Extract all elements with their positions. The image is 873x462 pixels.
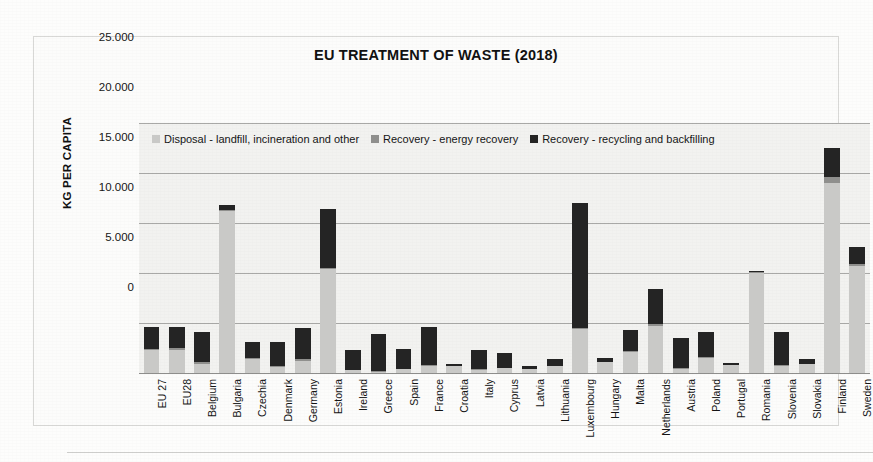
bar-segment — [371, 334, 387, 372]
stacked-bar[interactable] — [345, 350, 361, 373]
bar-segment — [396, 369, 412, 373]
stacked-bar[interactable] — [824, 148, 840, 373]
x-label-slot: Denmark — [265, 377, 290, 462]
bar-slot — [492, 123, 517, 373]
stacked-bar[interactable] — [421, 327, 437, 374]
bar-segment — [749, 273, 765, 373]
stacked-bar[interactable] — [623, 330, 639, 373]
x-label-slot: Slovakia — [794, 377, 819, 462]
stacked-bar[interactable] — [194, 332, 210, 374]
bar-segment — [446, 366, 462, 373]
stacked-bar[interactable] — [295, 328, 311, 373]
bar-segment — [623, 330, 639, 352]
bar-segment — [547, 366, 563, 373]
stacked-bar[interactable] — [396, 349, 412, 374]
bar-slot — [542, 123, 567, 373]
x-label-slot: Italy — [467, 377, 492, 462]
x-label-slot: Germany — [290, 377, 315, 462]
bar-segment — [723, 365, 739, 373]
x-label-slot: Bulgaria — [215, 377, 240, 462]
bar-segment — [295, 328, 311, 360]
x-label-slot: Luxembourg — [567, 377, 592, 462]
bar-segment — [799, 364, 815, 373]
stacked-bar[interactable] — [723, 363, 739, 373]
y-axis-tick-label: 0 — [74, 281, 134, 293]
stacked-bar[interactable] — [673, 338, 689, 373]
bar-segment — [471, 370, 487, 374]
bar-slot — [366, 123, 391, 373]
x-label-slot: France — [416, 377, 441, 462]
x-label-slot: Poland — [693, 377, 718, 462]
bar-segment — [497, 368, 513, 373]
bar-slot — [215, 123, 240, 373]
legend-label: Recovery - recycling and backfilling — [542, 133, 714, 145]
x-label-slot: Cyprus — [492, 377, 517, 462]
chart-legend: Disposal - landfill, incineration and ot… — [152, 133, 715, 145]
stacked-bar[interactable] — [572, 203, 588, 373]
bar-slot — [391, 123, 416, 373]
x-axis-tick-label: Sweden — [861, 379, 873, 417]
bar-segment — [169, 350, 185, 374]
bar-slot — [240, 123, 265, 373]
x-label-slot: Ireland — [341, 377, 366, 462]
bar-segment — [648, 326, 664, 373]
bar-segment — [471, 350, 487, 370]
x-label-slot: Finland — [819, 377, 844, 462]
bar-segment — [597, 362, 613, 373]
bar-segment — [497, 353, 513, 368]
legend-swatch-icon — [152, 135, 160, 143]
y-axis-tick-label: 10.000 — [74, 181, 134, 193]
stacked-bar[interactable] — [245, 342, 261, 373]
bar-slot — [567, 123, 592, 373]
x-label-slot: Greece — [366, 377, 391, 462]
bar-segment — [421, 366, 437, 373]
x-label-slot: Estonia — [315, 377, 340, 462]
stacked-bar[interactable] — [497, 353, 513, 373]
y-axis-title: KG PER CAPITA — [61, 93, 73, 233]
legend-swatch-icon — [530, 135, 538, 143]
stacked-bar[interactable] — [169, 327, 185, 373]
stacked-bar[interactable] — [446, 364, 462, 373]
x-label-slot: Sweden — [845, 377, 870, 462]
bar-segment — [194, 364, 210, 373]
bar-slot — [139, 123, 164, 373]
bars-layer — [139, 123, 870, 373]
x-label-slot: Malta — [618, 377, 643, 462]
legend-label: Recovery - energy recovery — [383, 133, 518, 145]
stacked-bar[interactable] — [547, 359, 563, 373]
stacked-bar[interactable] — [749, 271, 765, 373]
bar-segment — [572, 329, 588, 373]
stacked-bar[interactable] — [648, 289, 664, 373]
stacked-bar[interactable] — [774, 332, 790, 373]
stacked-bar[interactable] — [270, 342, 286, 373]
bar-segment — [396, 349, 412, 369]
bar-segment — [144, 327, 160, 349]
bar-slot — [845, 123, 870, 373]
x-label-slot: Netherlands — [643, 377, 668, 462]
legend-item[interactable]: Recovery - recycling and backfilling — [530, 133, 714, 145]
bar-segment — [698, 358, 714, 373]
bar-slot — [265, 123, 290, 373]
x-label-slot: Portugal — [719, 377, 744, 462]
stacked-bar[interactable] — [320, 209, 336, 373]
legend-item[interactable]: Disposal - landfill, incineration and ot… — [152, 133, 359, 145]
stacked-bar[interactable] — [522, 366, 538, 373]
stacked-bar[interactable] — [144, 327, 160, 374]
legend-item[interactable]: Recovery - energy recovery — [371, 133, 518, 145]
bar-segment — [345, 350, 361, 370]
stacked-bar[interactable] — [471, 350, 487, 373]
bar-segment — [245, 359, 261, 373]
x-label-slot: Austria — [668, 377, 693, 462]
bar-segment — [295, 361, 311, 373]
bar-slot — [517, 123, 542, 373]
stacked-bar[interactable] — [597, 358, 613, 373]
legend-label: Disposal - landfill, incineration and ot… — [164, 133, 359, 145]
stacked-bar[interactable] — [219, 205, 235, 373]
stacked-bar[interactable] — [799, 359, 815, 373]
x-axis-tick-labels: EU 27EU28BelgiumBulgariaCzechiaDenmarkGe… — [139, 377, 870, 462]
bar-segment — [824, 148, 840, 177]
stacked-bar[interactable] — [698, 332, 714, 373]
stacked-bar[interactable] — [371, 334, 387, 373]
stacked-bar[interactable] — [849, 247, 865, 373]
x-label-slot: Lithuania — [542, 377, 567, 462]
